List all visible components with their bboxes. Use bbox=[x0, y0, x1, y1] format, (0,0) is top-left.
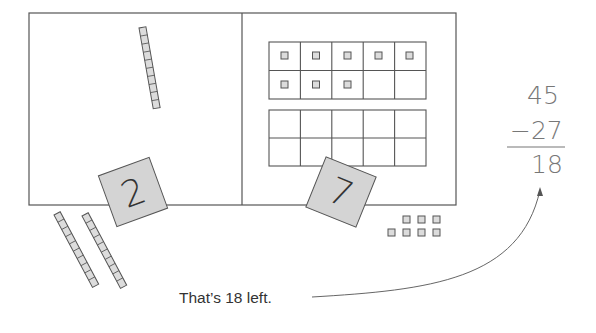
ten-frame-bottom bbox=[269, 110, 426, 166]
arrowhead-icon bbox=[537, 187, 543, 196]
tens-rod-on-mat bbox=[139, 27, 160, 109]
place-value-diagram: 2 7 bbox=[0, 0, 596, 333]
difference: 18 bbox=[531, 150, 563, 179]
digit-card-ones: 7 bbox=[306, 157, 376, 227]
subtrahend: −27 bbox=[510, 116, 563, 145]
minuend: 45 bbox=[527, 81, 559, 110]
ten-frame-top bbox=[269, 42, 426, 99]
caption: That’s 18 left. bbox=[179, 289, 272, 307]
removed-ones-cubes bbox=[388, 216, 440, 236]
digit-card-tens: 2 bbox=[98, 157, 167, 226]
